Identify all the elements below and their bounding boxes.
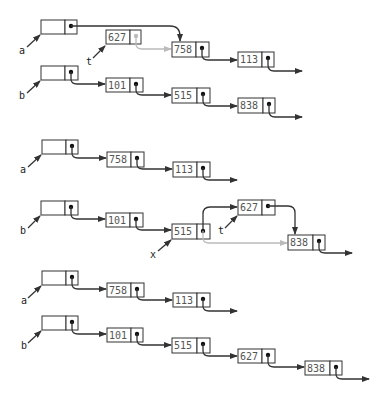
node-101: 101	[106, 78, 143, 92]
label-b: b	[20, 225, 26, 236]
head-pointer-a	[41, 20, 77, 34]
label-a: a	[19, 45, 25, 56]
svg-text:758: 758	[174, 44, 192, 55]
svg-text:101: 101	[108, 215, 126, 226]
svg-text:113: 113	[175, 295, 193, 306]
label-b: b	[19, 90, 25, 101]
label-t: t	[86, 56, 92, 67]
svg-text:113: 113	[240, 54, 258, 65]
edge-515-to-838-faded	[203, 231, 287, 243]
svg-text:101: 101	[109, 330, 127, 341]
linked-list-diagram: a 627 t 758 113	[0, 0, 392, 399]
label-arrow-icon	[28, 155, 41, 167]
node-758: 758	[107, 152, 144, 167]
node-758: 758	[107, 283, 144, 297]
label-t: t	[218, 225, 224, 236]
svg-text:101: 101	[108, 80, 126, 91]
label-arrow-icon	[28, 216, 40, 228]
node-515-x: 515	[172, 224, 210, 239]
svg-text:515: 515	[174, 90, 192, 101]
svg-text:838: 838	[307, 363, 325, 374]
svg-text:838: 838	[290, 237, 308, 248]
svg-text:627: 627	[240, 351, 258, 362]
label-arrow-icon	[225, 216, 237, 228]
node-113: 113	[173, 293, 210, 307]
node-515: 515	[172, 88, 210, 103]
node-758: 758	[172, 42, 209, 57]
label-arrow-icon	[28, 286, 41, 298]
svg-text:113: 113	[175, 164, 193, 175]
svg-text:758: 758	[109, 154, 127, 165]
section-step-3: a 758 113 b	[21, 271, 369, 379]
label-b: b	[21, 340, 27, 351]
label-arrow-icon	[93, 46, 105, 58]
label-arrow-icon	[158, 240, 171, 251]
node-113: 113	[173, 162, 210, 177]
node-515: 515	[172, 338, 210, 353]
svg-text:627: 627	[240, 202, 258, 213]
svg-text:627: 627	[108, 32, 126, 43]
svg-text:515: 515	[174, 226, 192, 237]
svg-text:758: 758	[109, 285, 127, 296]
section-step-2: a 758 113 b	[20, 140, 352, 260]
label-arrow-icon	[28, 331, 41, 343]
label-arrow-icon	[27, 81, 40, 93]
label-a: a	[20, 164, 26, 175]
head-pointer-b	[41, 201, 78, 215]
label-a: a	[21, 295, 27, 306]
node-101: 101	[106, 213, 143, 227]
node-627: 627	[238, 349, 275, 363]
label-x: x	[150, 249, 156, 260]
label-arrow-icon	[27, 35, 40, 47]
head-pointer-b	[41, 66, 78, 80]
section-step-1: a 627 t 758 113	[19, 20, 302, 117]
svg-text:838: 838	[240, 100, 258, 111]
svg-text:515: 515	[174, 340, 192, 351]
node-627-t: 627	[238, 200, 275, 215]
